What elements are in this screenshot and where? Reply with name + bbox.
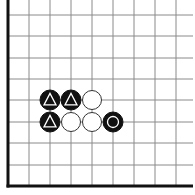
stones-layer: [40, 90, 123, 132]
white-stone[interactable]: [83, 91, 102, 110]
white-stone[interactable]: [83, 113, 102, 132]
white-stone[interactable]: [62, 113, 81, 132]
black-stone[interactable]: [40, 90, 60, 110]
black-stone[interactable]: [61, 90, 81, 110]
black-stone[interactable]: [103, 112, 123, 132]
black-stone[interactable]: [40, 112, 60, 132]
go-board[interactable]: [0, 0, 195, 195]
